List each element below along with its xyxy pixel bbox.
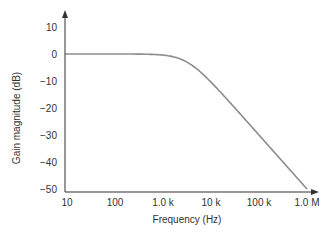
gain-curve <box>65 54 307 189</box>
y-tick-label: −50 <box>40 184 57 195</box>
y-axis-arrow-icon <box>62 10 68 18</box>
y-axis-title: Gain magnitude (dB) <box>11 72 22 164</box>
y-tick-label: 0 <box>51 49 57 60</box>
y-axis-tick-labels: 100−10−20−30−40−50 <box>40 22 57 195</box>
y-tick-label: −10 <box>40 76 57 87</box>
x-tick-label: 10 <box>61 197 73 208</box>
y-tick-label: −30 <box>40 130 57 141</box>
x-tick-label: 1.0 M <box>294 197 319 208</box>
y-tick-label: −20 <box>40 103 57 114</box>
x-tick-label: 1.0 k <box>152 197 175 208</box>
x-tick-label: 10 k <box>202 197 222 208</box>
x-tick-label: 100 k <box>247 197 272 208</box>
y-tick-label: 10 <box>46 22 58 33</box>
x-axis-title: Frequency (Hz) <box>153 214 222 225</box>
bode-gain-chart: 100−10−20−30−40−50 101001.0 k10 k100 k1.… <box>0 0 334 241</box>
x-axis-tick-labels: 101001.0 k10 k100 k1.0 M <box>61 197 319 208</box>
x-axis-arrow-icon <box>311 189 319 195</box>
y-tick-label: −40 <box>40 157 57 168</box>
x-tick-label: 100 <box>107 197 124 208</box>
